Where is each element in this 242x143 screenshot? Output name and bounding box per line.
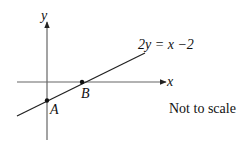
point-a: [45, 98, 49, 102]
point-b-label: B: [81, 86, 90, 101]
point-a-label: A: [49, 102, 59, 117]
graph-line: [17, 53, 145, 116]
line-equation-label: 2y = x −2: [138, 37, 194, 52]
line-graph-diagram: y x 2y = x −2 A B Not to scale: [0, 0, 242, 143]
x-axis-label: x: [166, 74, 174, 89]
y-axis-label: y: [39, 8, 48, 23]
not-to-scale-note: Not to scale: [169, 101, 236, 116]
point-b: [80, 80, 84, 84]
